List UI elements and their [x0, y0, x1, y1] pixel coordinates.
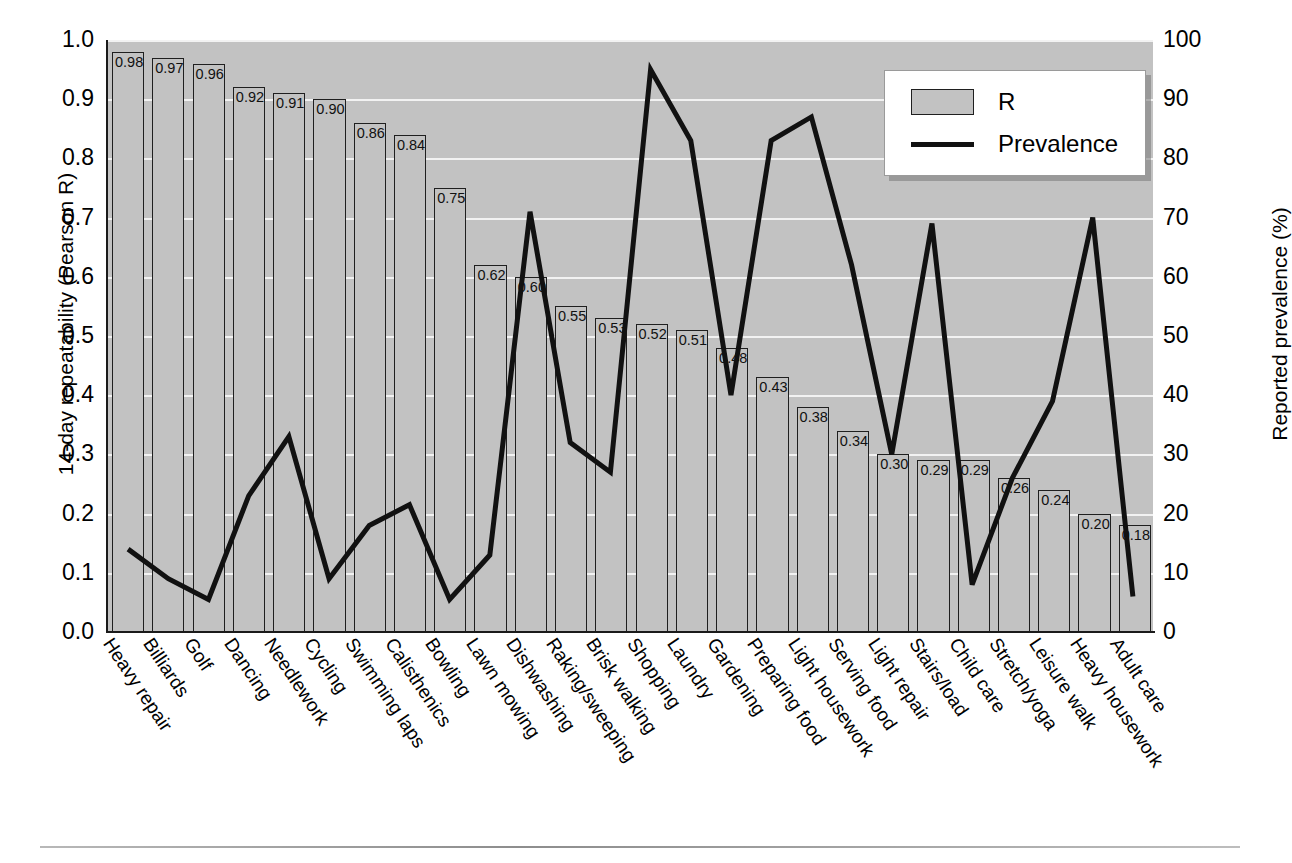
page-divider-rule — [40, 846, 1240, 848]
y-tick-right-70: 70 — [1163, 206, 1243, 229]
legend-label-prevalence: Prevalence — [998, 132, 1118, 156]
legend-label-r: R — [998, 90, 1015, 114]
legend-line-swatch-icon — [911, 142, 974, 147]
y-tick-left-0.8: 0.8 — [18, 146, 94, 169]
legend-item-r: R — [911, 87, 1015, 117]
y-tick-right-10: 10 — [1163, 561, 1243, 584]
x-axis-category-labels: Heavy repairBilliardsGolfDancingNeedlewo… — [0, 632, 1281, 832]
y-tick-left-0.3: 0.3 — [18, 442, 94, 465]
legend-bar-swatch-icon — [911, 89, 974, 115]
y-tick-left-0.6: 0.6 — [18, 265, 94, 288]
y-tick-right-80: 80 — [1163, 146, 1243, 169]
y-axis-right-title: Reported prevalence (%) — [1268, 44, 1292, 604]
y-tick-left-0.2: 0.2 — [18, 502, 94, 525]
y-tick-right-30: 30 — [1163, 442, 1243, 465]
y-tick-right-40: 40 — [1163, 383, 1243, 406]
y-tick-left-0.1: 0.1 — [18, 561, 94, 584]
y-tick-left-0.5: 0.5 — [18, 324, 94, 347]
chart-legend: R Prevalence — [884, 70, 1146, 176]
y-tick-right-90: 90 — [1163, 87, 1243, 110]
x-category-label-golf: Golf — [178, 632, 216, 675]
legend-item-prevalence: Prevalence — [911, 129, 1118, 159]
y-tick-left-0.7: 0.7 — [18, 206, 94, 229]
y-tick-left-0.4: 0.4 — [18, 383, 94, 406]
y-tick-left-0.9: 0.9 — [18, 87, 94, 110]
y-tick-right-100: 100 — [1163, 28, 1243, 51]
y-tick-right-50: 50 — [1163, 324, 1243, 347]
y-tick-right-20: 20 — [1163, 502, 1243, 525]
y-tick-right-60: 60 — [1163, 265, 1243, 288]
y-tick-left-1.0: 1.0 — [18, 28, 94, 51]
